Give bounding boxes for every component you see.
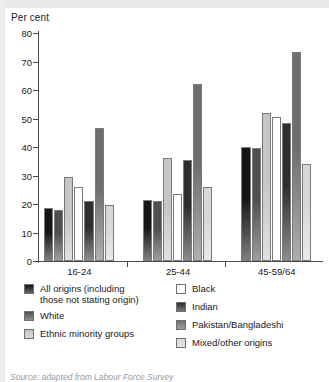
legend-swatch (176, 302, 186, 312)
legend-label: All origins (includingthose not stating … (24, 283, 174, 305)
legend-item: Black (176, 283, 326, 296)
legend-item: Pakistan/Bangladeshi (176, 319, 326, 332)
bar-chart: Per cent 01020304050607080 16-2425-4445-… (0, 8, 329, 283)
legend-swatch (24, 329, 34, 339)
legend-item: All origins (includingthose not stating … (24, 283, 174, 305)
legend-item: White (24, 310, 174, 323)
legend-label: Pakistan/Bangladeshi (176, 319, 326, 330)
legend-swatch (24, 311, 34, 321)
legend-item: Indian (176, 301, 326, 314)
legend-swatch (176, 338, 186, 348)
legend-label: Indian (176, 301, 326, 312)
legend-item: Mixed/other origins (176, 337, 326, 350)
legend-swatch (24, 284, 34, 294)
legend-swatch (176, 284, 186, 294)
legend-label: Black (176, 283, 326, 294)
legend-label: Mixed/other origins (176, 337, 326, 348)
x-axis-labels: 16-2425-4445-59/64 (0, 8, 329, 283)
x-group-separator (127, 262, 128, 267)
source-note: Source: adapted from Labour Force Survey (10, 372, 173, 382)
x-group-label: 16-24 (30, 266, 129, 277)
x-group-label: 45-59/64 (227, 266, 326, 277)
legend-label: White (24, 310, 174, 321)
chart-legend: All origins (includingthose not stating … (0, 283, 329, 361)
x-group-label: 25-44 (129, 266, 228, 277)
x-group-separator (225, 262, 226, 267)
scan-band-top (0, 0, 329, 8)
legend-column-left: All origins (includingthose not stating … (24, 283, 174, 346)
legend-column-right: BlackIndianPakistan/BangladeshiMixed/oth… (176, 283, 326, 355)
legend-label: Ethnic minority groups (24, 328, 174, 339)
legend-item: Ethnic minority groups (24, 328, 174, 341)
legend-swatch (176, 320, 186, 330)
